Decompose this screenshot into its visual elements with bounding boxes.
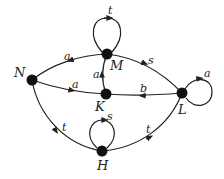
node-N (27, 75, 38, 86)
node-K (101, 89, 112, 100)
node-label-K: K (94, 99, 106, 114)
edge-M-N-arrow (70, 59, 74, 61)
graph-canvas: N M K L H t a s a a b a t s t (0, 0, 224, 179)
edge-label-H-H: s (107, 110, 113, 123)
edge-H-L-arrow (146, 137, 150, 139)
node-H (97, 146, 108, 157)
edge-label-M-M: t (108, 4, 113, 17)
edge-label-M-L: s (148, 54, 154, 67)
edge-N-K (32, 80, 106, 94)
state-diagram: N M K L H t a s a a b a t s t (0, 0, 224, 179)
node-label-N: N (13, 65, 26, 80)
edge-label-N-H: t (62, 121, 67, 134)
edge-M-M (93, 18, 120, 52)
node-L (177, 88, 188, 99)
edge-label-H-L: t (146, 123, 151, 136)
edge-L-L (185, 80, 212, 106)
edge-N-H-arrow (54, 128, 56, 131)
edge-label-L-L: a (204, 67, 211, 80)
node-label-L: L (177, 102, 187, 117)
edge-K-M (103, 54, 107, 94)
edge-label-N-K: a (72, 78, 79, 91)
edge-H-L (102, 93, 182, 151)
node-label-H: H (96, 158, 109, 173)
edge-label-M-N: a (64, 50, 71, 63)
edge-label-L-K: b (140, 82, 147, 95)
edge-H-H (90, 120, 115, 148)
edge-label-K-M: a (93, 68, 100, 81)
node-label-M: M (109, 58, 124, 73)
edge-L-L-arrow (196, 79, 200, 80)
